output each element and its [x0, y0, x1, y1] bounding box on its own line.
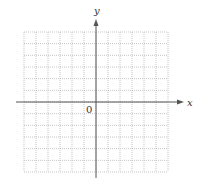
y-axis-arrow-icon — [94, 19, 99, 26]
x-axis-arrow-icon — [177, 100, 184, 105]
coordinate-plane: x y 0 — [0, 0, 198, 188]
y-axis-label: y — [93, 5, 100, 16]
origin-label: 0 — [86, 104, 92, 115]
x-axis-label: x — [187, 97, 193, 108]
